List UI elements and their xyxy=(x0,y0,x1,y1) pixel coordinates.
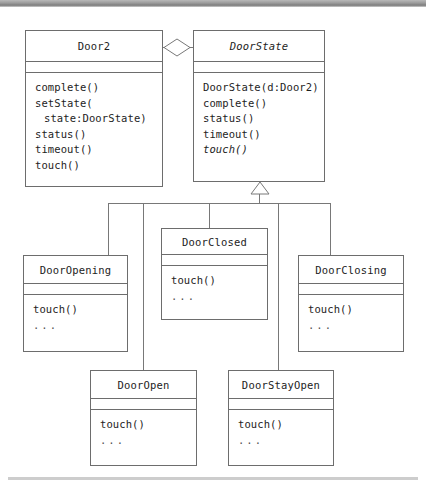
generalization-drop-doorclosed xyxy=(209,203,210,228)
operation: touch() xyxy=(100,417,196,433)
class-name-dooropening: DoorOpening xyxy=(24,256,127,284)
generalization-bus xyxy=(108,203,331,204)
class-operations-doorstate: DoorState(d:Door2) complete() status() t… xyxy=(194,73,324,162)
class-box-dooropen[interactable]: DoorOpen touch() ... xyxy=(90,370,197,466)
operation-ellipsis: ... xyxy=(308,318,403,334)
class-box-doorstayopen[interactable]: DoorStayOpen touch() ... xyxy=(228,370,334,466)
operation: complete() xyxy=(35,80,162,96)
page-bottom-rule xyxy=(8,477,418,480)
class-operations-dooropen: touch() ... xyxy=(91,410,196,452)
class-operations-doorstayopen: touch() ... xyxy=(229,410,333,452)
operation-abstract: touch() xyxy=(203,142,324,158)
operation-ellipsis: ... xyxy=(238,433,333,449)
operation: touch() xyxy=(308,302,403,318)
class-name-doorstayopen: DoorStayOpen xyxy=(229,371,333,399)
class-operations-door2: complete() setState( state:DoorState) st… xyxy=(26,73,162,177)
class-attributes-doorstayopen xyxy=(229,399,333,410)
generalization-drop-doorstayopen xyxy=(278,203,279,370)
operation: status() xyxy=(35,127,162,143)
class-box-doorclosing[interactable]: DoorClosing touch() ... xyxy=(298,255,404,352)
class-operations-doorclosing: touch() ... xyxy=(299,295,403,337)
operation-continuation: state:DoorState) xyxy=(35,111,162,127)
generalization-drop-doorclosing xyxy=(330,203,331,255)
class-operations-doorclosed: touch() ... xyxy=(162,266,267,308)
aggregation-diamond-icon xyxy=(163,38,191,57)
operation: status() xyxy=(203,111,324,127)
class-name-door2: Door2 xyxy=(26,31,162,62)
generalization-triangle-icon xyxy=(250,181,270,195)
class-attributes-doorclosed xyxy=(162,255,267,266)
operation: timeout() xyxy=(203,127,324,143)
class-attributes-dooropen xyxy=(91,399,196,410)
class-name-doorclosed: DoorClosed xyxy=(162,229,267,255)
class-box-doorclosed[interactable]: DoorClosed touch() ... xyxy=(161,228,268,320)
operation: touch() xyxy=(35,158,162,174)
operation: DoorState(d:Door2) xyxy=(203,80,324,96)
operation-ellipsis: ... xyxy=(171,289,267,305)
uml-class-diagram-canvas: Door2 complete() setState( state:DoorSta… xyxy=(0,0,426,490)
class-attributes-door2 xyxy=(26,62,162,73)
operation-ellipsis: ... xyxy=(100,433,196,449)
operation: setState( xyxy=(35,96,162,112)
class-attributes-dooropening xyxy=(24,284,127,295)
class-name-doorstate: DoorState xyxy=(194,31,324,62)
operation: touch() xyxy=(33,302,127,318)
class-box-door2[interactable]: Door2 complete() setState( state:DoorSta… xyxy=(25,30,163,187)
class-box-doorstate[interactable]: DoorState DoorState(d:Door2) complete() … xyxy=(193,30,325,182)
generalization-drop-dooropen xyxy=(143,203,144,370)
class-name-doorclosing: DoorClosing xyxy=(299,256,403,284)
generalization-drop-dooropening xyxy=(108,203,109,255)
class-operations-dooropening: touch() ... xyxy=(24,295,127,337)
class-attributes-doorclosing xyxy=(299,284,403,295)
operation-ellipsis: ... xyxy=(33,318,127,334)
class-box-dooropening[interactable]: DoorOpening touch() ... xyxy=(23,255,128,352)
class-attributes-doorstate xyxy=(194,62,324,73)
page-top-rule xyxy=(0,0,426,7)
class-name-dooropen: DoorOpen xyxy=(91,371,196,399)
operation: timeout() xyxy=(35,142,162,158)
operation: touch() xyxy=(171,273,267,289)
operation: complete() xyxy=(203,96,324,112)
operation: touch() xyxy=(238,417,333,433)
